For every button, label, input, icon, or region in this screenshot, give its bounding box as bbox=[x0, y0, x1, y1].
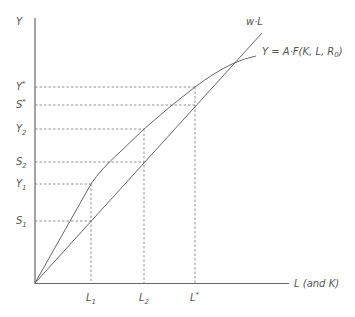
wage-line bbox=[35, 33, 262, 283]
tick-y1: Y1 bbox=[16, 178, 27, 192]
tick-s-star: S* bbox=[16, 98, 26, 110]
y-axis-label: Y bbox=[16, 16, 23, 27]
tick-l-star: L* bbox=[190, 291, 200, 303]
tick-y2: Y2 bbox=[16, 123, 27, 137]
tick-y-star: Y* bbox=[16, 80, 26, 92]
economic-diagram: w·L Y = A·F(K, L, R0) Y L (and K) Y* S* … bbox=[0, 0, 355, 317]
production-curve-label: Y = A·F(K, L, R0) bbox=[262, 46, 343, 59]
tick-s1: S1 bbox=[16, 215, 27, 229]
tick-l2: L2 bbox=[139, 292, 150, 306]
x-axis-label: L (and K) bbox=[294, 278, 339, 289]
tick-s2: S2 bbox=[16, 156, 27, 170]
tick-l1: L1 bbox=[86, 292, 96, 306]
production-curve bbox=[35, 56, 256, 283]
wage-line-label: w·L bbox=[246, 16, 263, 27]
